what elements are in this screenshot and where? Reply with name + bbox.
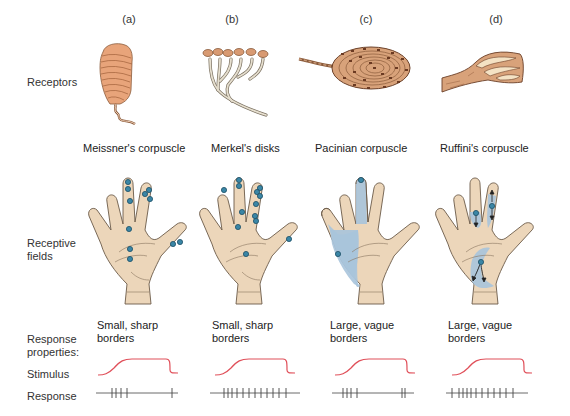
- column-letter-a: (a): [109, 13, 149, 25]
- response-property-d-line1: Large, vague: [448, 319, 512, 332]
- response-property-c-line2: borders: [330, 332, 394, 345]
- column-letter-b: (b): [212, 13, 252, 25]
- hand-receptive-field-c: [318, 172, 428, 307]
- response-property-b-line2: borders: [212, 332, 273, 345]
- response-property-c-line1: Large, vague: [330, 319, 394, 332]
- response-trace-b: [210, 386, 300, 400]
- row-label-response: Response: [27, 390, 77, 403]
- stimulus-trace-c: [333, 350, 423, 380]
- response-property-d-line2: borders: [448, 332, 512, 345]
- row-label-response-properties: Response properties:: [27, 333, 79, 359]
- merkel-disks-illustration: [198, 45, 278, 120]
- hand-receptive-field-a: [85, 172, 195, 307]
- column-letter-d: (d): [476, 13, 516, 25]
- row-label-receptive-fields-line1: Receptive: [27, 237, 76, 250]
- receptor-caption-d: Ruffini's corpuscle: [440, 142, 529, 154]
- response-property-c: Large, vague borders: [330, 319, 394, 345]
- row-label-receptive-fields: Receptive fields: [27, 237, 76, 263]
- ruffini-corpuscle-illustration: [440, 48, 530, 93]
- row-label-response-properties-line2: properties:: [27, 346, 79, 359]
- row-label-response-properties-line1: Response: [27, 333, 79, 346]
- response-trace-a: [96, 386, 186, 400]
- hand-receptive-field-b: [196, 172, 306, 307]
- hand-receptive-field-d: [432, 172, 542, 307]
- row-label-receptive-fields-line2: fields: [27, 250, 76, 263]
- stimulus-trace-b: [213, 350, 303, 380]
- response-property-d: Large, vague borders: [448, 319, 512, 345]
- stimulus-trace-d: [450, 350, 540, 380]
- row-label-receptors: Receptors: [27, 76, 77, 89]
- column-letter-c: (c): [346, 13, 386, 25]
- row-label-stimulus: Stimulus: [27, 368, 69, 381]
- response-trace-d: [446, 386, 536, 400]
- response-property-a-line2: borders: [97, 332, 158, 345]
- response-property-a-line1: Small, sharp: [97, 319, 158, 332]
- response-property-b-line1: Small, sharp: [212, 319, 273, 332]
- receptor-caption-c: Pacinian corpuscle: [315, 142, 407, 154]
- stimulus-trace-a: [96, 350, 186, 380]
- pacinian-corpuscle-illustration: [297, 45, 412, 95]
- response-property-b: Small, sharp borders: [212, 319, 273, 345]
- receptor-caption-b: Merkel's disks: [211, 142, 280, 154]
- response-trace-c: [332, 386, 422, 400]
- response-property-a: Small, sharp borders: [97, 319, 158, 345]
- receptor-caption-a: Meissner's corpuscle: [83, 142, 185, 154]
- meissner-corpuscle-illustration: [95, 40, 155, 125]
